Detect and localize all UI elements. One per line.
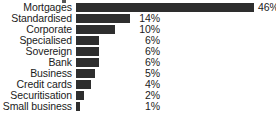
bar-track — [76, 3, 276, 12]
bar-track — [76, 47, 276, 56]
bar — [76, 69, 95, 78]
bar-track — [76, 58, 276, 67]
category-label: Small business — [0, 101, 72, 112]
value-label: 46% — [258, 2, 276, 13]
bar — [76, 47, 99, 56]
bar-track — [76, 69, 276, 78]
bar-row: Small business1% — [0, 101, 276, 112]
bar — [76, 102, 80, 111]
bar-track — [76, 91, 276, 100]
bar — [76, 80, 91, 89]
bar-chart-rows: Mortgages46%Standardised14%Corporate10%S… — [0, 2, 276, 112]
bar — [76, 91, 84, 100]
bar — [76, 36, 99, 45]
bar-track — [76, 102, 276, 111]
bar-track — [76, 36, 276, 45]
bar — [76, 58, 99, 67]
value-label: 1% — [110, 101, 160, 112]
bar-row: Sovereign6% — [0, 46, 276, 57]
bar-track — [76, 25, 276, 34]
bar — [76, 3, 254, 12]
bar-chart: Mortgages46%Standardised14%Corporate10%S… — [0, 0, 276, 121]
bar-track — [76, 14, 276, 23]
bar-track — [76, 80, 276, 89]
